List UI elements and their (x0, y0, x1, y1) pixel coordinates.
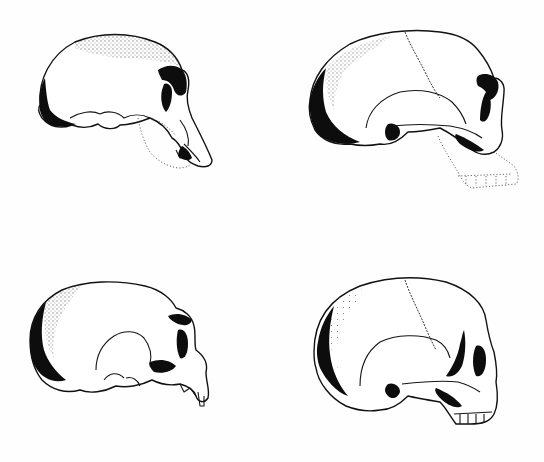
skull-bottom-left (30, 282, 209, 406)
skull-comparison-figure (0, 0, 544, 462)
skull-top-right (309, 31, 518, 189)
figure-drawing (0, 0, 544, 462)
skull-top-left (39, 35, 212, 169)
skull-bottom-right (314, 278, 497, 424)
